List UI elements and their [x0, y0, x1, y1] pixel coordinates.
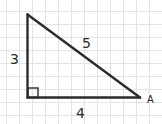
triangle-diagram: 3 5 4 A [0, 0, 162, 124]
label-hypotenuse: 5 [82, 35, 91, 51]
diagram-canvas: 3 5 4 A [0, 0, 162, 124]
label-horizontal-side: 4 [76, 105, 85, 121]
vertex-label-a: A [147, 94, 154, 105]
label-vertical-side: 3 [10, 51, 19, 67]
